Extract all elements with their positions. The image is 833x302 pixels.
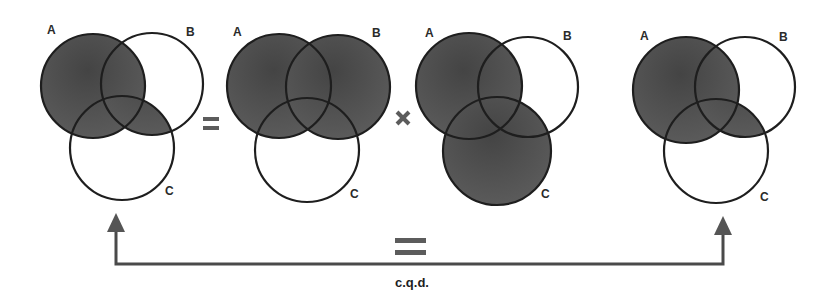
venn-diagrams: ABCABCABCABC — [41, 23, 795, 205]
times-operator — [397, 112, 409, 124]
set-label-c: C — [165, 184, 174, 198]
bottom-equals-sign — [395, 238, 426, 255]
left-arrow-up-icon — [107, 213, 125, 232]
venn-diagram-lhs: ABC — [41, 23, 203, 200]
set-label-b: B — [779, 30, 788, 44]
set-label-a: A — [425, 26, 434, 40]
set-label-b: B — [563, 29, 572, 43]
venn-diagram-factor1: ABC — [227, 25, 390, 202]
set-label-c: C — [760, 190, 769, 204]
venn-proof-figure: ABCABCABCABC c.q.d. — [0, 0, 833, 302]
right-arrow-up-icon — [714, 216, 732, 235]
set-label-b: B — [186, 25, 195, 39]
set-label-a: A — [640, 29, 649, 43]
equals-operator — [203, 117, 219, 130]
shaded-region — [41, 33, 203, 138]
set-label-c: C — [350, 187, 359, 201]
shaded-region — [227, 34, 390, 139]
set-label-a: A — [233, 25, 242, 39]
set-label-a: A — [47, 23, 56, 37]
venn-diagram-rhs: ABC — [633, 29, 795, 204]
set-label-b: B — [372, 26, 381, 40]
set-label-c: C — [541, 187, 550, 201]
venn-diagram-factor2: ABC — [416, 26, 578, 205]
connector-line — [116, 230, 723, 264]
shaded-region — [416, 33, 551, 205]
conclusion-label-cqd: c.q.d. — [395, 275, 429, 290]
